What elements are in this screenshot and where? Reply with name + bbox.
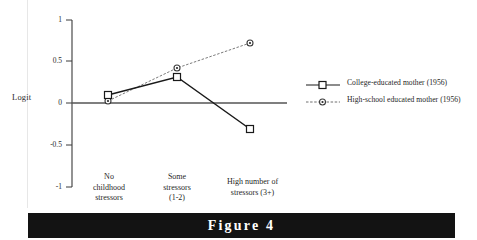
figure-container: Logit 1 0.5 0 -0.5 -1 No childhood stres… (0, 0, 477, 240)
x-category-label-1: No childhood stressors (70, 172, 148, 204)
y-tick-label-1: 1 (40, 15, 62, 24)
y-tick-label--1: -1 (40, 182, 62, 191)
y-axis-title: Logit (12, 92, 31, 102)
legend-key-square-icon (306, 77, 340, 89)
y-tick-label-0: 0 (40, 98, 62, 107)
x-category-label-3: High number of stressors (3+) (205, 177, 300, 198)
y-tick-label-0.5: 0.5 (40, 56, 62, 65)
legend-label-college: College-educated mother (1956) (347, 78, 447, 87)
legend-item-high-school[interactable]: High-school educated mother (1956) (306, 91, 477, 108)
legend-item-college[interactable]: College-educated mother (1956) (306, 74, 477, 91)
legend-key-circle-icon (306, 94, 340, 106)
series-line-high-school (108, 43, 250, 101)
figure-caption-bar: Figure 4 (28, 213, 455, 238)
x-category-label-2: Some stressors (1-2) (141, 172, 213, 204)
plot-area: Logit 1 0.5 0 -0.5 -1 No childhood stres… (0, 0, 310, 210)
chart-legend: College-educated mother (1956) High-scho… (306, 74, 477, 108)
y-tick-label--0.5: -0.5 (40, 140, 62, 149)
figure-caption-text: Figure 4 (28, 213, 455, 238)
legend-label-high-school: High-school educated mother (1956) (347, 95, 461, 104)
